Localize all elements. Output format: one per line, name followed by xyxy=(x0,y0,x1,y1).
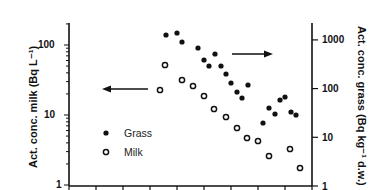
milk-point xyxy=(190,83,195,88)
y-right-tick-10: 10 xyxy=(322,132,333,143)
milk-point xyxy=(255,138,260,143)
grass-point xyxy=(272,111,277,116)
y-right-tick-100: 100 xyxy=(322,83,339,94)
grass-point xyxy=(245,82,250,87)
grass-point xyxy=(239,95,244,100)
grass-point xyxy=(234,89,239,94)
milk-point xyxy=(162,62,167,67)
scatter-chart xyxy=(0,0,378,190)
milk-point xyxy=(223,114,228,119)
grass-point xyxy=(206,63,211,68)
y-left-tick-10: 10 xyxy=(44,109,55,120)
data-points xyxy=(157,30,302,170)
milk-point xyxy=(266,153,271,158)
y-right-tick-1: 1 xyxy=(322,181,328,190)
y-axis-right-title: Act. conc. grass (Bq kg⁻¹ d.w.) xyxy=(355,26,368,186)
legend-label-milk: Milk xyxy=(124,146,143,158)
milk-point xyxy=(157,87,162,92)
y-right-tick-1000: 1000 xyxy=(322,34,344,45)
grass-point xyxy=(163,32,168,37)
y-left-tick-1: 1 xyxy=(56,179,62,190)
grass-point xyxy=(218,63,223,68)
milk-point xyxy=(234,125,239,130)
milk-point xyxy=(297,165,302,170)
grass-point xyxy=(223,71,228,76)
grass-point xyxy=(277,97,282,102)
grass-point xyxy=(228,80,233,85)
milk-point xyxy=(211,106,216,111)
milk-point xyxy=(244,135,249,140)
milk-point xyxy=(201,93,206,98)
grass-point xyxy=(282,94,287,99)
grass-point xyxy=(195,45,200,50)
milk-point xyxy=(287,146,292,151)
legend-label-grass: Grass xyxy=(124,127,152,139)
grass-point xyxy=(201,57,206,62)
grass-point xyxy=(288,109,293,114)
grass-point xyxy=(293,112,298,117)
axes xyxy=(64,23,318,190)
milk-point xyxy=(179,77,184,82)
grass-point xyxy=(212,51,217,56)
grass-point xyxy=(260,120,265,125)
grass-point xyxy=(174,30,179,35)
y-axis-left-title: Act. conc. milk (Bq L⁻¹) xyxy=(27,46,40,168)
y-left-tick-100: 100 xyxy=(38,39,55,50)
grass-point xyxy=(179,39,184,44)
legend-markers xyxy=(103,130,108,154)
grass-point xyxy=(266,105,271,110)
